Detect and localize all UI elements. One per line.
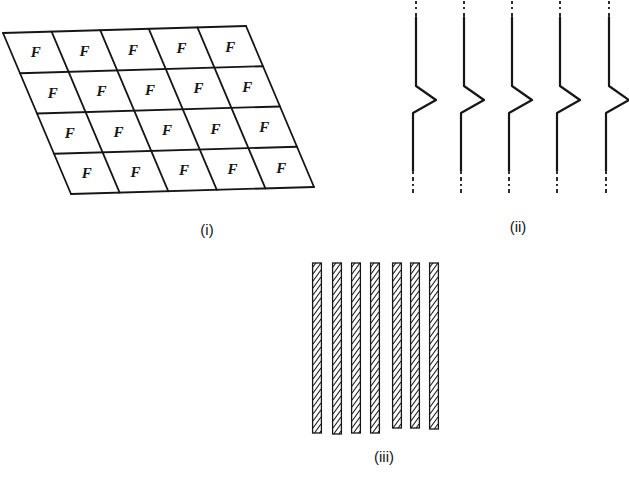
hatched-stripe: [313, 263, 322, 433]
hatched-stripe: [352, 263, 361, 433]
panel-hatched-stripes: [313, 263, 439, 434]
panel-ii-label: (ii): [510, 218, 527, 235]
cell-letter: F: [241, 79, 252, 95]
line-kink-path: [606, 17, 629, 171]
grid-row-line: [54, 147, 297, 154]
kinked-line: [413, 1, 436, 193]
cell-letter: F: [227, 161, 238, 177]
hatched-stripe: [371, 263, 380, 433]
cell-letter: F: [95, 83, 106, 99]
cell-letter: F: [258, 119, 269, 135]
figure-canvas: FFFFFFFFFFFFFFFFFFFF (i) (ii) (iii): [0, 0, 629, 477]
grid-row-line: [20, 66, 263, 73]
figure-svg: FFFFFFFFFFFFFFFFFFFF (i) (ii) (iii): [0, 0, 629, 477]
panel-i-label: (i): [200, 221, 213, 238]
panel-sheared-grid: FFFFFFFFFFFFFFFFFFFF: [3, 26, 314, 194]
cell-letter: F: [129, 164, 140, 180]
line-kink-path: [461, 17, 484, 171]
cell-letter: F: [224, 39, 235, 55]
hatched-stripe: [411, 263, 420, 428]
panel-iii-label: (iii): [374, 448, 394, 465]
kinked-line: [509, 1, 532, 193]
hatched-stripe: [430, 263, 439, 429]
hatched-stripe: [393, 263, 402, 428]
hatched-stripe: [333, 263, 342, 434]
cell-letter: F: [210, 121, 221, 137]
cell-letter: F: [127, 42, 138, 58]
kinked-line: [461, 1, 484, 193]
kinked-line: [606, 1, 629, 193]
cell-letter: F: [275, 160, 286, 176]
grid-row-line: [37, 107, 280, 114]
cell-letter: F: [144, 82, 155, 98]
line-kink-path: [413, 17, 436, 171]
line-kink-path: [509, 17, 532, 171]
cell-letter: F: [178, 162, 189, 178]
line-kink-path: [557, 17, 580, 171]
cell-letter: F: [81, 165, 92, 181]
kinked-line: [557, 1, 580, 193]
panel-kinked-lines: [413, 1, 629, 193]
cell-letter: F: [112, 124, 123, 140]
cell-letter: F: [176, 40, 187, 56]
cell-letter: F: [47, 85, 58, 101]
grid-row-line: [3, 26, 246, 33]
cell-letter: F: [64, 125, 75, 141]
cell-letter: F: [193, 80, 204, 96]
cell-letter: F: [78, 43, 89, 59]
cell-letter: F: [30, 44, 41, 60]
grid-row-line: [71, 187, 314, 194]
stripe-hatch-line: [434, 424, 438, 429]
cell-letter: F: [161, 122, 172, 138]
